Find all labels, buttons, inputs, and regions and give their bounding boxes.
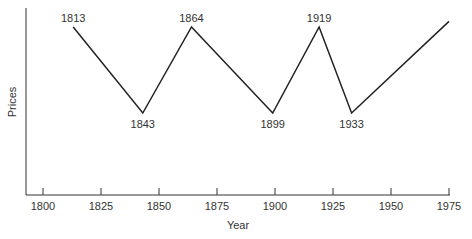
point-label: 1843: [131, 118, 155, 130]
x-tick-label: 1850: [147, 200, 171, 212]
x-tick-label: 1925: [321, 200, 345, 212]
point-label: 1899: [260, 118, 284, 130]
price-line: [73, 21, 449, 113]
x-tick-label: 1950: [379, 200, 403, 212]
price-chart: 18001825185018751900192519501975 1813184…: [0, 0, 472, 239]
point-label: 1933: [339, 118, 363, 130]
point-label: 1919: [307, 12, 331, 24]
point-label: 1864: [179, 12, 203, 24]
x-axis-ticks: [43, 188, 449, 195]
x-tick-label: 1975: [437, 200, 461, 212]
y-axis-title: Prices: [6, 86, 18, 117]
x-tick-label: 1825: [89, 200, 113, 212]
x-tick-label: 1800: [31, 200, 55, 212]
x-axis-title: Year: [227, 219, 250, 231]
x-axis-tick-labels: 18001825185018751900192519501975: [31, 200, 461, 212]
point-label: 1813: [61, 12, 85, 24]
x-tick-label: 1875: [205, 200, 229, 212]
x-tick-label: 1900: [263, 200, 287, 212]
